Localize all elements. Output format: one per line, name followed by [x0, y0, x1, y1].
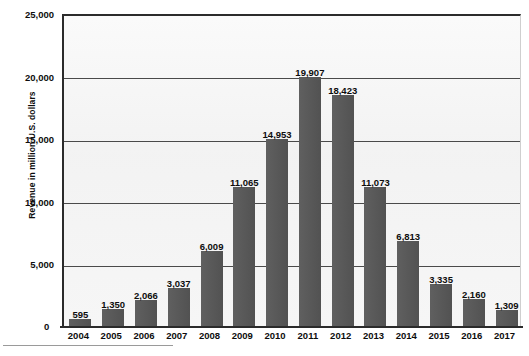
- y-axis-tick-label: 10,000: [25, 196, 54, 207]
- bar-value-label: 18,423: [328, 85, 357, 96]
- bar-value-label: 6,813: [396, 231, 420, 242]
- bar-chart-figure: Revenue in million U.S. dollars 5,00010,…: [0, 0, 529, 356]
- y-axis-tick-label: 5,000: [30, 259, 54, 270]
- bar[interactable]: [332, 95, 354, 326]
- bar[interactable]: [463, 299, 485, 326]
- bar-value-label: 595: [72, 309, 88, 320]
- x-axis-tick-label: 2013: [363, 330, 384, 341]
- bar-value-label: 2,160: [462, 289, 486, 300]
- x-axis-tick-label: 2008: [199, 330, 220, 341]
- bar[interactable]: [266, 139, 288, 326]
- bar[interactable]: [69, 319, 91, 326]
- footer-divider: [3, 345, 173, 346]
- x-axis-tick-label: 2015: [428, 330, 449, 341]
- bar[interactable]: [102, 309, 124, 326]
- bar-value-label: 3,037: [167, 278, 191, 289]
- bar[interactable]: [299, 77, 321, 326]
- bar[interactable]: [496, 310, 518, 326]
- x-axis-tick-label: 2006: [133, 330, 154, 341]
- bar-value-label: 14,953: [263, 129, 292, 140]
- bar-value-label: 2,066: [134, 290, 158, 301]
- x-axis-tick-label: 2007: [166, 330, 187, 341]
- bar[interactable]: [233, 187, 255, 326]
- bar-value-label: 11,065: [230, 177, 259, 188]
- x-axis-tick-label: 2010: [265, 330, 286, 341]
- bar-value-label: 3,335: [429, 274, 453, 285]
- x-axis-tick-label: 2005: [101, 330, 122, 341]
- bars-layer: 5951,3502,0663,0376,00911,06514,95319,90…: [64, 16, 520, 326]
- bar[interactable]: [168, 288, 190, 326]
- bar-value-label: 19,907: [295, 67, 324, 78]
- y-axis-tick-label: 15,000: [25, 134, 54, 145]
- y-axis-tick-labels: 5,00010,00015,00020,00025,000: [0, 0, 58, 356]
- x-axis-line: [60, 326, 523, 328]
- x-axis-tick-label: 2017: [494, 330, 515, 341]
- y-axis-tick-label: 20,000: [25, 71, 54, 82]
- bar[interactable]: [135, 300, 157, 326]
- bar[interactable]: [201, 251, 223, 326]
- y-axis-zero-label: 0: [44, 321, 49, 332]
- bar[interactable]: [364, 187, 386, 326]
- bar-value-label: 1,309: [495, 300, 519, 311]
- x-axis-tick-label: 2016: [461, 330, 482, 341]
- x-axis-tick-label: 2012: [330, 330, 351, 341]
- bar[interactable]: [397, 241, 419, 326]
- bar-value-label: 6,009: [200, 241, 224, 252]
- x-axis-tick-label: 2004: [68, 330, 89, 341]
- x-axis-tick-label: 2014: [396, 330, 417, 341]
- y-axis-tick-label: 25,000: [25, 9, 54, 20]
- plot-area: 5951,3502,0663,0376,00911,06514,95319,90…: [62, 14, 521, 327]
- x-axis-tick-label: 2011: [298, 330, 319, 341]
- bar[interactable]: [430, 284, 452, 326]
- bar-value-label: 11,073: [361, 177, 390, 188]
- x-axis-tick-label: 2009: [232, 330, 253, 341]
- bar-value-label: 1,350: [101, 299, 125, 310]
